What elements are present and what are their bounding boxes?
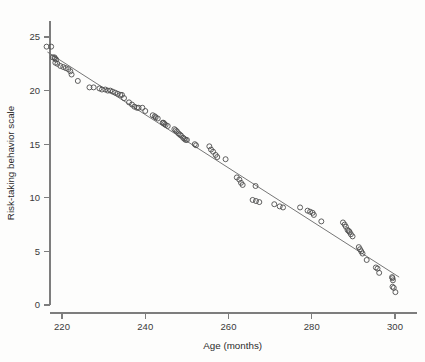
y-tick-label: 5 xyxy=(35,246,40,257)
data-point-circle xyxy=(143,108,148,113)
data-point-circle xyxy=(223,157,228,162)
data-points-group xyxy=(44,44,398,294)
axis-labels-group: Age (months)Risk-taking behavior scale xyxy=(5,105,262,351)
data-point-circle xyxy=(253,199,258,204)
x-axis-title: Age (months) xyxy=(203,340,262,351)
y-tick-label: 0 xyxy=(35,299,40,310)
y-tick-label: 20 xyxy=(29,85,40,96)
x-tick-label: 240 xyxy=(137,321,153,332)
plot-canvas: 0510152025220240260280300 Age (months)Ri… xyxy=(0,0,425,362)
axes-group: 0510152025220240260280300 xyxy=(29,21,417,332)
x-tick-label: 280 xyxy=(304,321,320,332)
data-point-circle xyxy=(298,205,303,210)
data-point-circle xyxy=(281,205,286,210)
data-point-circle xyxy=(257,200,262,205)
data-point-circle xyxy=(393,290,398,295)
data-point-circle xyxy=(75,78,80,83)
scatter-plot-figure: 0510152025220240260280300 Age (months)Ri… xyxy=(0,0,425,362)
data-point-circle xyxy=(272,202,277,207)
y-tick-label: 10 xyxy=(29,192,40,203)
data-point-circle xyxy=(140,105,145,110)
y-axis-title: Risk-taking behavior scale xyxy=(5,105,16,220)
y-tick-label: 25 xyxy=(29,31,40,42)
data-point-circle xyxy=(250,197,255,202)
data-point-circle xyxy=(319,219,324,224)
y-tick-label: 15 xyxy=(29,139,40,150)
data-point-circle xyxy=(69,72,74,77)
x-tick-label: 220 xyxy=(54,321,70,332)
data-point-circle xyxy=(277,204,282,209)
data-point-circle xyxy=(364,257,369,262)
x-tick-label: 300 xyxy=(387,321,403,332)
x-tick-label: 260 xyxy=(221,321,237,332)
data-point-circle xyxy=(377,270,382,275)
